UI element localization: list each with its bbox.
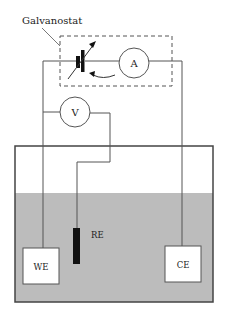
reference-electrode bbox=[73, 228, 80, 264]
galvanostat-leader bbox=[42, 28, 60, 46]
ce-label: CE bbox=[177, 260, 190, 270]
galvanostat-label: Galvanostat bbox=[22, 15, 82, 26]
re-label: RE bbox=[91, 230, 104, 240]
feedback-arrowhead bbox=[89, 71, 95, 77]
feedback-arrow bbox=[93, 75, 115, 78]
voltmeter-label: V bbox=[70, 107, 79, 118]
we-label: WE bbox=[34, 262, 49, 272]
electrochemical-cell-diagram: Galvanostat A V RE WE CE bbox=[0, 0, 225, 316]
ammeter-label: A bbox=[129, 58, 138, 69]
